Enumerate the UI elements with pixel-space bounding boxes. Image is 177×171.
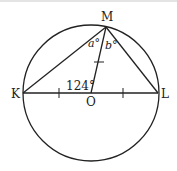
angle-label-124: 124°: [66, 79, 95, 93]
circle-geometry-diagram: M K L O 124° a° b°: [0, 0, 177, 171]
angle-label-a: a°: [88, 37, 100, 50]
label-O: O: [86, 95, 96, 109]
label-L: L: [161, 87, 169, 101]
label-M: M: [101, 10, 113, 24]
label-K: K: [11, 87, 21, 101]
angle-label-b: b°: [105, 39, 118, 52]
